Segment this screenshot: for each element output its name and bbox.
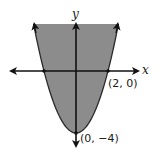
inequality-graph: y x (2, 0) (0, −4) bbox=[0, 0, 161, 154]
point-label-x-intercept: (2, 0) bbox=[108, 77, 138, 90]
x-axis-label: x bbox=[142, 63, 149, 77]
y-axis-label: y bbox=[71, 7, 79, 21]
point-vertex bbox=[74, 131, 78, 135]
point-left-x-intercept bbox=[42, 69, 46, 73]
point-right-x-intercept bbox=[106, 69, 110, 73]
point-label-vertex: (0, −4) bbox=[80, 132, 119, 145]
